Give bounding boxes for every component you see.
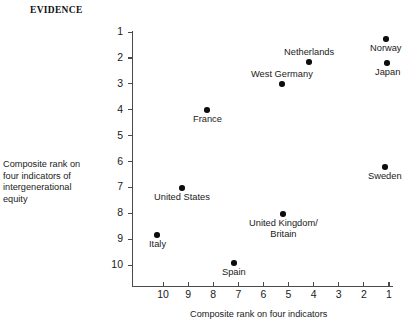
x-tick-label: 1 [379, 288, 399, 300]
y-tick [128, 265, 132, 266]
y-tick [128, 109, 132, 110]
x-tick [363, 282, 364, 286]
x-tick-label: 6 [253, 288, 273, 300]
data-point-label: Norway [370, 43, 402, 54]
y-tick [128, 57, 132, 58]
y-tick-label: 6 [101, 155, 123, 167]
y-tick-label: 9 [101, 232, 123, 244]
y-tick [128, 83, 132, 84]
x-tick-label: 7 [228, 288, 248, 300]
y-tick [128, 32, 132, 33]
x-tick [263, 282, 264, 286]
x-tick-label: 9 [178, 288, 198, 300]
plot-area: 12345678910 10987654321 NorwayJapanNethe… [0, 0, 411, 332]
data-point-label: Italy [149, 239, 166, 250]
data-point [231, 260, 237, 266]
data-point [382, 164, 388, 170]
data-point [280, 211, 286, 217]
y-tick-label: 5 [101, 129, 123, 141]
data-point [154, 232, 160, 238]
y-tick-label: 4 [101, 103, 123, 115]
y-tick-label: 8 [101, 206, 123, 218]
x-tick-label: 2 [354, 288, 374, 300]
x-tick [213, 282, 214, 286]
data-point-label: United Kingdom/ Britain [249, 218, 318, 239]
x-tick-label: 10 [153, 288, 173, 300]
y-axis-line [132, 31, 133, 287]
y-tick-label: 3 [101, 77, 123, 89]
data-point-label: Japan [375, 67, 400, 78]
data-point [179, 185, 185, 191]
data-point [384, 60, 390, 66]
x-tick-label: 5 [279, 288, 299, 300]
y-tick [128, 135, 132, 136]
data-point-label: West Germany [251, 69, 313, 80]
y-tick [128, 187, 132, 188]
x-tick [163, 282, 164, 286]
x-tick-label: 3 [329, 288, 349, 300]
data-point-label: United States [154, 192, 210, 203]
x-tick [188, 282, 189, 286]
data-point [204, 107, 210, 113]
y-tick-label: 7 [101, 180, 123, 192]
evidence-scatter-figure: EVIDENCE Composite rank on four indicato… [0, 0, 411, 332]
x-tick [338, 282, 339, 286]
y-tick-label: 2 [101, 51, 123, 63]
data-point [279, 81, 285, 87]
y-tick [128, 239, 132, 240]
data-point-label: Spain [222, 267, 246, 278]
data-point [306, 59, 312, 65]
y-tick-label: 10 [101, 258, 123, 270]
x-tick [238, 282, 239, 286]
data-point-label: Netherlands [284, 47, 334, 58]
x-tick [313, 282, 314, 286]
y-tick-label: 1 [101, 25, 123, 37]
data-point-label: France [193, 114, 222, 125]
y-tick [128, 213, 132, 214]
x-tick-label: 4 [304, 288, 324, 300]
data-point [383, 36, 389, 42]
y-tick [128, 161, 132, 162]
x-tick-label: 8 [203, 288, 223, 300]
x-tick [388, 282, 389, 286]
x-tick [288, 282, 289, 286]
data-point-label: Sweden [368, 171, 402, 182]
